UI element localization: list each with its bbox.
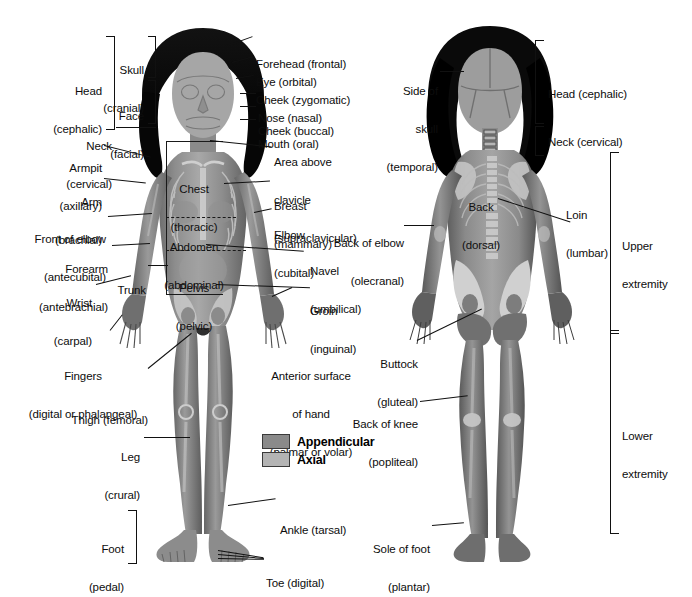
label-toe-line1: Toe (digital): [266, 577, 324, 590]
leader-nose: [240, 93, 256, 94]
label-neck-posterior: Neck (cervical): [548, 111, 623, 174]
legend: Appendicular Axial: [262, 434, 374, 470]
label-sole-of-foot: Sole of foot (plantar): [330, 518, 430, 597]
label-upper-extremity-line1: Upper: [622, 240, 668, 253]
label-sole-of-foot-line1: Sole of foot: [330, 543, 430, 556]
label-foot: Foot (pedal): [50, 518, 124, 597]
legend-label-appendicular: Appendicular: [297, 435, 374, 449]
legend-item-axial: Axial: [262, 452, 374, 467]
label-toe: Toe (digital): [266, 552, 324, 597]
label-back-of-elbow-line1: Back of elbow: [300, 237, 404, 250]
label-trunk: Trunk: [104, 259, 146, 322]
bracket-skull: [148, 36, 156, 78]
label-pelvis: Pelvis (pelvic): [162, 257, 226, 358]
legend-swatch-axial: [262, 452, 290, 467]
legend-swatch-appendicular: [262, 434, 290, 449]
label-side-of-skull-line3: (temporal): [368, 161, 438, 174]
label-chest-line1: Chest: [160, 183, 228, 196]
label-pelvis-line2: (pelvic): [162, 320, 226, 333]
leader-cheek-buccal: [240, 106, 256, 107]
leader-side-of-skull: [440, 71, 464, 72]
label-foot-line1: Foot: [50, 543, 124, 556]
leader-mouth: [240, 119, 256, 120]
label-sole-of-foot-line2: (plantar): [330, 581, 430, 594]
label-leg: Leg (crural): [62, 426, 140, 527]
label-back-line1: Back: [446, 201, 516, 214]
legend-item-appendicular: Appendicular: [262, 434, 374, 449]
label-loin-line2: (lumbar): [566, 247, 608, 260]
label-trunk-line1: Trunk: [104, 284, 146, 297]
label-wrist-line1: Wrist: [16, 297, 92, 310]
label-back-of-knee-line1: Back of knee: [322, 418, 418, 431]
label-lower-extremity-line1: Lower: [622, 430, 668, 443]
label-lower-extremity: Lower extremity: [622, 405, 668, 506]
leader-back-of-elbow: [404, 225, 434, 226]
label-side-of-skull-line2: skull: [368, 123, 438, 136]
label-upper-extremity-line2: extremity: [622, 278, 668, 291]
label-upper-extremity: Upper extremity: [622, 215, 668, 316]
bracket-face: [148, 80, 156, 124]
label-loin-line1: Loin: [566, 209, 608, 222]
label-back-of-elbow: Back of elbow (olecranal): [300, 212, 404, 313]
label-skull-line1: Skull: [76, 64, 144, 77]
label-abdomen-line1: Abdomen: [152, 241, 236, 254]
bracket-head-posterior: [535, 40, 544, 124]
bracket-lower-extremity: [610, 330, 619, 534]
label-neck-posterior-line1: Neck (cervical): [548, 136, 623, 149]
label-arm-line1: Arm: [18, 196, 102, 209]
bracket-upper-extremity: [610, 152, 619, 334]
label-back-line2: (dorsal): [446, 239, 516, 252]
label-lower-extremity-line2: extremity: [622, 468, 668, 481]
legend-label-axial: Axial: [297, 453, 326, 467]
label-side-of-skull-line1: Side of: [368, 85, 438, 98]
label-loin: Loin (lumbar): [566, 184, 608, 285]
label-buttock-line1: Buttock: [340, 358, 418, 371]
label-side-of-skull: Side of skull (temporal): [368, 60, 438, 199]
label-leg-line1: Leg: [62, 451, 140, 464]
label-pelvis-line1: Pelvis: [162, 282, 226, 295]
label-fingers-line1: Fingers: [10, 370, 156, 383]
label-leg-line2: (crural): [62, 489, 140, 502]
label-foot-line2: (pedal): [50, 581, 124, 594]
bracket-neck-posterior: [535, 126, 544, 156]
label-back: Back (dorsal): [446, 176, 516, 277]
label-thigh-line1: Thigh (femoral): [50, 414, 148, 427]
label-head-posterior-line1: Head (cephalic): [548, 88, 627, 101]
label-area-above-clavicle-line1: Area above: [274, 156, 357, 169]
label-back-of-elbow-line2: (olecranal): [300, 275, 404, 288]
